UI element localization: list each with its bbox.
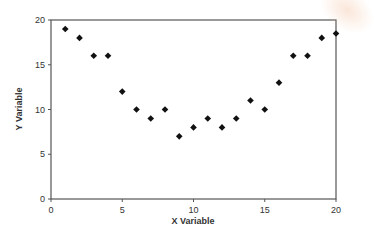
data-point-marker [62, 26, 69, 33]
x-tick-label: 0 [48, 205, 53, 215]
x-tick-label: 10 [188, 205, 198, 215]
y-tick-label: 0 [40, 194, 45, 204]
x-axis-ticks: 05101520 [48, 199, 341, 215]
data-point-marker [247, 97, 254, 104]
y-tick-label: 15 [35, 60, 45, 70]
data-point-marker [290, 53, 297, 60]
data-point-marker [76, 35, 83, 42]
data-point-marker [105, 53, 112, 60]
data-point-marker [190, 124, 197, 131]
data-point-marker [204, 115, 211, 122]
x-tick-label: 15 [260, 205, 270, 215]
plot-frame [51, 20, 336, 199]
y-tick-label: 5 [40, 149, 45, 159]
y-tick-label: 10 [35, 105, 45, 115]
data-point-marker [219, 124, 226, 131]
data-point-marker [276, 79, 283, 86]
data-point-marker [176, 133, 183, 140]
data-point-marker [333, 30, 340, 37]
y-axis-ticks: 05101520 [35, 15, 51, 204]
x-tick-label: 20 [331, 205, 341, 215]
y-tick-label: 20 [35, 15, 45, 25]
data-point-marker [119, 88, 126, 95]
data-point-marker [162, 106, 169, 113]
data-point-marker [304, 53, 311, 60]
data-point-marker [133, 106, 140, 113]
data-points [62, 26, 339, 140]
x-axis-label: X Variable [171, 216, 214, 226]
plot-border [51, 20, 336, 199]
data-point-marker [233, 115, 240, 122]
data-point-marker [261, 106, 268, 113]
y-axis-label: Y Variable [14, 88, 24, 131]
data-point-marker [90, 53, 97, 60]
data-point-marker [147, 115, 154, 122]
x-tick-label: 5 [120, 205, 125, 215]
data-point-marker [318, 35, 325, 42]
